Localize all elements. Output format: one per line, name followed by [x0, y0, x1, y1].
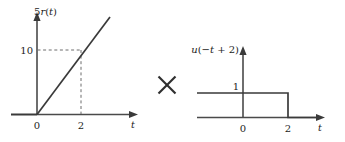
figure-root: 5r(t) 10 0 2 t u(−t + 2) — [0, 0, 345, 142]
left-plot: 5r(t) 10 0 2 t — [11, 6, 138, 131]
left-plot-xtick-2: 2 — [78, 120, 84, 131]
signal-multiplication-figure: 5r(t) 10 0 2 t u(−t + 2) — [0, 0, 345, 142]
right-plot-xtick-0: 0 — [240, 123, 246, 134]
left-plot-xtick-0: 0 — [34, 120, 40, 131]
right-plot: u(−t + 2) 1 0 2 t — [191, 44, 325, 134]
left-plot-ramp-line — [37, 17, 110, 115]
left-plot-function-label: 5r(t) — [34, 6, 57, 17]
left-plot-x-axis-label: t — [131, 119, 135, 130]
multiplication-sign-icon — [159, 77, 176, 94]
left-plot-y-value-label: 10 — [20, 45, 33, 56]
right-plot-x-axis-arrowhead — [316, 114, 325, 121]
right-plot-level-label: 1 — [233, 81, 239, 92]
right-plot-x-axis-label: t — [318, 122, 322, 133]
right-plot-xtick-2: 2 — [285, 123, 291, 134]
right-plot-y-axis-arrowhead — [239, 46, 246, 55]
right-plot-step-waveform — [197, 93, 316, 118]
left-plot-x-axis-arrowhead — [129, 111, 138, 118]
right-plot-function-label: u(−t + 2) — [191, 44, 239, 55]
